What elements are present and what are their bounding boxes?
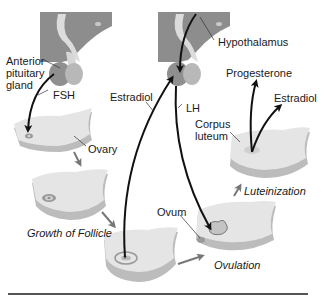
- label-line: pituitary: [6, 67, 45, 79]
- label-line: gland: [6, 79, 45, 91]
- ovary-stage-2: [32, 169, 108, 220]
- bottom-divider: [8, 293, 308, 295]
- label-ovary: Ovary: [88, 143, 117, 155]
- label-ovulation: Ovulation: [214, 259, 260, 271]
- label-estradiol-right: Estradiol: [274, 92, 317, 104]
- label-growth-of-follicle: Growth of Follicle: [27, 227, 112, 239]
- label-progesterone: Progesterone: [226, 67, 292, 79]
- left-hypothalamus-pituitary: [40, 12, 112, 86]
- right-hypothalamus-pituitary: [158, 12, 230, 86]
- label-line: Corpus: [195, 118, 230, 130]
- label-fsh: FSH: [53, 89, 75, 101]
- ovarian-cycle-diagram: Anterior pituitary gland FSH Hypothalamu…: [0, 0, 324, 298]
- label-luteinization: Luteinization: [244, 185, 306, 197]
- label-estradiol-left: Estradiol: [110, 91, 153, 103]
- stage-arrow-4: [234, 186, 240, 196]
- label-hypothalamus: Hypothalamus: [218, 36, 288, 48]
- label-line: luteum: [195, 130, 230, 142]
- label-anterior-pituitary: Anterior pituitary gland: [6, 55, 45, 91]
- stage-arrow-1: [74, 152, 80, 164]
- label-corpus-luteum: Corpus luteum: [195, 118, 230, 142]
- stage-arrow-2: [102, 212, 114, 226]
- label-line: Anterior: [6, 55, 45, 67]
- stage-arrow-3: [178, 256, 202, 264]
- label-ovum: Ovum: [157, 206, 186, 218]
- ovary-stage-1: [14, 108, 92, 152]
- ovary-stage-3: [104, 227, 178, 282]
- label-lh: LH: [186, 102, 200, 114]
- ovary-stage-5: [230, 127, 310, 178]
